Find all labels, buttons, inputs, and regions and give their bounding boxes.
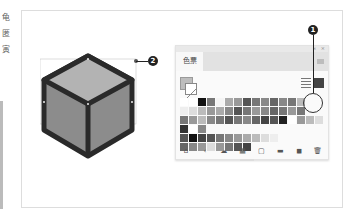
swatch[interactable] xyxy=(189,125,197,133)
swatch-options-icon[interactable]: ▦ xyxy=(237,147,249,155)
swatch[interactable] xyxy=(234,134,242,142)
folder-icon[interactable]: ▬ xyxy=(274,147,286,155)
swatch[interactable] xyxy=(180,116,188,124)
swatch-row xyxy=(180,125,324,133)
swatch[interactable] xyxy=(261,98,269,106)
swatch[interactable] xyxy=(252,134,260,142)
swatch[interactable] xyxy=(198,107,206,115)
swatch[interactable] xyxy=(252,98,260,106)
tab-swatches[interactable]: 色票 xyxy=(176,52,203,71)
close-icon[interactable]: × xyxy=(321,45,325,51)
swatch[interactable] xyxy=(279,107,287,115)
swatch[interactable] xyxy=(234,98,242,106)
swatch[interactable] xyxy=(315,116,323,124)
swatch[interactable] xyxy=(198,116,206,124)
left-edge-bar xyxy=(0,101,3,209)
swatch[interactable] xyxy=(270,116,278,124)
grid-view-icon[interactable] xyxy=(314,78,324,88)
tag-icon[interactable]: ‹ xyxy=(199,147,211,155)
swatch[interactable] xyxy=(270,98,278,106)
side-char: 寅 xyxy=(2,42,12,58)
side-char: 龟 xyxy=(2,10,12,26)
swatch[interactable] xyxy=(270,107,278,115)
swatch[interactable] xyxy=(279,116,287,124)
stroke-swatch[interactable] xyxy=(185,83,197,95)
swatch[interactable] xyxy=(180,125,188,133)
callout-badge-2: 2 xyxy=(148,56,158,66)
swatch[interactable] xyxy=(252,107,260,115)
highlight-circle xyxy=(303,93,323,113)
swatch[interactable] xyxy=(234,107,242,115)
side-char: 匿 xyxy=(2,26,12,42)
side-text: 龟 匿 寅 xyxy=(2,10,12,58)
panel-tab-row: 色票 xyxy=(176,52,328,71)
panel-menu-icon[interactable] xyxy=(317,59,324,64)
swatch[interactable] xyxy=(189,107,197,115)
swatch[interactable] xyxy=(216,116,224,124)
swatch[interactable] xyxy=(225,116,233,124)
cloud-icon[interactable]: ☁ xyxy=(218,147,230,155)
swatch[interactable] xyxy=(234,116,242,124)
list-view-icon[interactable] xyxy=(301,78,311,88)
swatch-row xyxy=(180,116,324,124)
swatch[interactable] xyxy=(207,98,215,106)
swatch[interactable] xyxy=(216,134,224,142)
swatch[interactable] xyxy=(198,134,206,142)
swatch[interactable] xyxy=(216,98,224,106)
delete-icon[interactable]: 🗑 xyxy=(312,147,324,155)
new-swatch-icon[interactable]: ◼ xyxy=(293,147,305,155)
swatch[interactable] xyxy=(225,134,233,142)
panel-resize-handle[interactable] xyxy=(240,159,254,161)
swatch-row xyxy=(180,134,324,142)
swatch[interactable] xyxy=(243,98,251,106)
swatch[interactable] xyxy=(198,98,206,106)
swatch[interactable] xyxy=(189,116,197,124)
new-color-group-icon[interactable]: ▢ xyxy=(255,147,267,155)
swatch[interactable] xyxy=(279,98,287,106)
swatch-grid xyxy=(180,98,324,152)
swatch[interactable] xyxy=(261,134,269,142)
swatch[interactable] xyxy=(243,116,251,124)
swatch[interactable] xyxy=(180,98,188,106)
swatch[interactable] xyxy=(297,116,305,124)
swatch[interactable] xyxy=(198,125,206,133)
swatch[interactable] xyxy=(288,116,296,124)
panel-bottom-toolbar: ⌂‹☁▦▢▬◼🗑 xyxy=(180,147,324,155)
swatch[interactable] xyxy=(180,107,188,115)
swatch[interactable] xyxy=(207,134,215,142)
cube-illustration[interactable] xyxy=(40,52,140,162)
swatch[interactable] xyxy=(207,107,215,115)
fill-stroke-indicator[interactable] xyxy=(180,77,197,94)
swatch[interactable] xyxy=(243,107,251,115)
swatch[interactable] xyxy=(225,107,233,115)
library-icon[interactable]: ⌂ xyxy=(180,147,192,155)
swatch[interactable] xyxy=(216,107,224,115)
swatch[interactable] xyxy=(180,134,188,142)
callout-badge-1: 1 xyxy=(308,25,318,35)
swatch[interactable] xyxy=(225,98,233,106)
swatch[interactable] xyxy=(252,116,260,124)
swatch[interactable] xyxy=(288,107,296,115)
swatch-row xyxy=(180,107,324,115)
callout-line-1 xyxy=(313,35,314,93)
swatch[interactable] xyxy=(207,116,215,124)
swatch[interactable] xyxy=(270,134,278,142)
swatch[interactable] xyxy=(261,116,269,124)
swatch[interactable] xyxy=(288,98,296,106)
callout-line-2 xyxy=(136,61,148,62)
swatch[interactable] xyxy=(261,107,269,115)
swatch[interactable] xyxy=(189,98,197,106)
swatch[interactable] xyxy=(189,134,197,142)
swatch[interactable] xyxy=(306,116,314,124)
swatch[interactable] xyxy=(243,134,251,142)
